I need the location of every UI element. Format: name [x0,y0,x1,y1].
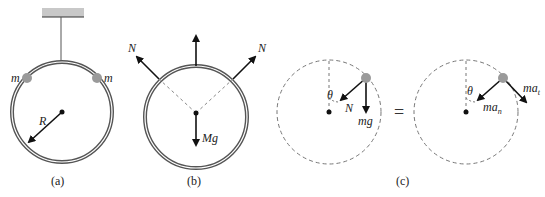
normal-label-left: N [127,41,137,55]
caption-a: (a) [51,174,64,188]
physics-diagram: m m R (a) N N Mg (b) θ N mg = [0,0,545,197]
bead [498,73,508,83]
normal-arrow-right [233,57,255,79]
caption-b: (b) [187,174,201,188]
radius-label: R [38,114,47,128]
theta-label: θ [467,84,473,98]
bead [361,73,371,83]
mass-label-left: m [11,71,20,85]
bead-left [22,73,32,83]
weight-label: Mg [201,131,218,145]
tangential-accel-label: mat [523,81,541,97]
normal-accel-label: man [483,100,502,116]
normal-arrow-left [137,57,159,79]
figure-c-left: θ N mg [277,60,381,164]
normal-label: N [344,101,354,115]
normal-label-right: N [257,41,267,55]
figure-c-right: θ man mat [414,60,541,164]
diagram-canvas: m m R (a) N N Mg (b) θ N mg = [0,0,545,197]
figure-b: N N Mg (b) [127,36,267,188]
bead-right [92,73,102,83]
weight-label: mg [358,114,373,128]
caption-c: (c) [396,174,409,188]
mass-label-right: m [104,71,113,85]
theta-label: θ [327,88,333,102]
ceiling-block [42,8,84,17]
figure-a: m m R (a) [11,8,113,188]
equals-sign: = [394,102,404,122]
